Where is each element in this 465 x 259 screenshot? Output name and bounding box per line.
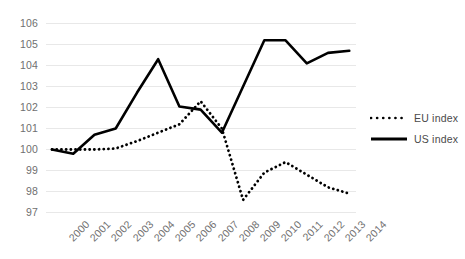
y-tick-label: 105 (12, 38, 38, 50)
y-tick-label: 104 (12, 59, 38, 71)
series-lines (52, 40, 349, 200)
y-tick-label: 100 (12, 143, 38, 155)
gridlines (46, 24, 356, 213)
series-line-eu-index (52, 101, 349, 200)
legend-swatch-dotted (370, 112, 408, 124)
y-tick-label: 97 (12, 206, 38, 218)
legend-item-us-index[interactable]: US index (370, 133, 458, 145)
y-tick-label: 98 (12, 185, 38, 197)
y-tick-label: 103 (12, 80, 38, 92)
legend-label-eu-index: EU index (414, 112, 458, 124)
y-tick-label: 106 (12, 17, 38, 29)
legend-item-eu-index[interactable]: EU index (370, 112, 458, 124)
line-chart: 979899100101102103104105106 200020012002… (0, 0, 465, 259)
y-tick-label: 99 (12, 164, 38, 176)
legend-swatch-solid (370, 133, 408, 145)
y-tick-label: 102 (12, 101, 38, 113)
chart-legend: EU index US index (370, 112, 458, 145)
legend-label-us-index: US index (414, 133, 458, 145)
series-line-us-index (52, 40, 349, 153)
y-tick-label: 101 (12, 122, 38, 134)
